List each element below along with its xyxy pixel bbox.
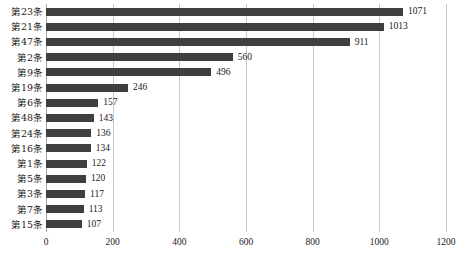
bar-row[interactable]: 246 <box>46 80 446 95</box>
bar[interactable] <box>46 144 91 152</box>
bar-value-label: 117 <box>90 187 104 202</box>
category-label: 第3条 <box>0 186 43 201</box>
bar[interactable] <box>46 114 94 122</box>
bar-value-label: 136 <box>96 126 110 141</box>
bar-value-label: 122 <box>92 156 106 171</box>
bar[interactable] <box>46 53 233 61</box>
bar[interactable] <box>46 99 98 107</box>
bar[interactable] <box>46 38 350 46</box>
bar-row[interactable]: 560 <box>46 50 446 65</box>
category-label: 第47条 <box>0 34 43 49</box>
bar-row[interactable]: 143 <box>46 110 446 125</box>
x-tick-label: 0 <box>44 236 49 248</box>
bar[interactable] <box>46 220 82 228</box>
category-label: 第24条 <box>0 126 43 141</box>
bar-row[interactable]: 120 <box>46 171 446 186</box>
bar-row[interactable]: 157 <box>46 95 446 110</box>
bar[interactable] <box>46 160 87 168</box>
category-label: 第48条 <box>0 110 43 125</box>
bar[interactable] <box>46 68 211 76</box>
category-label: 第21条 <box>0 19 43 34</box>
category-label: 第15条 <box>0 217 43 232</box>
x-tick-label: 200 <box>106 236 120 248</box>
bar-value-label: 911 <box>355 35 369 50</box>
bar-value-label: 134 <box>96 141 110 156</box>
category-label: 第16条 <box>0 141 43 156</box>
bar-row[interactable]: 134 <box>46 141 446 156</box>
x-tick-label: 400 <box>172 236 186 248</box>
bar-row[interactable]: 1013 <box>46 19 446 34</box>
category-label: 第23条 <box>0 4 43 19</box>
bar-value-label: 1013 <box>389 19 408 34</box>
bar-row[interactable]: 117 <box>46 186 446 201</box>
x-tick-label: 600 <box>239 236 253 248</box>
bar-row[interactable]: 136 <box>46 126 446 141</box>
bar-value-label: 1071 <box>408 4 427 19</box>
bar-value-label: 157 <box>103 95 117 110</box>
x-tick-label: 1200 <box>437 236 456 248</box>
bar-row[interactable]: 1071 <box>46 4 446 19</box>
bar[interactable] <box>46 190 85 198</box>
bar-value-label: 143 <box>99 111 113 126</box>
bar[interactable] <box>46 23 384 31</box>
bar-chart: 1071101391156049624615714313613412212011… <box>0 0 465 259</box>
bar-value-label: 560 <box>238 50 252 65</box>
category-label: 第5条 <box>0 171 43 186</box>
bar[interactable] <box>46 84 128 92</box>
bar-row[interactable]: 122 <box>46 156 446 171</box>
bar-row[interactable]: 496 <box>46 65 446 80</box>
bar-value-label: 496 <box>216 65 230 80</box>
bar-value-label: 246 <box>133 80 147 95</box>
bar[interactable] <box>46 129 91 137</box>
category-label: 第2条 <box>0 50 43 65</box>
bar-row[interactable]: 911 <box>46 34 446 49</box>
bar-row[interactable]: 113 <box>46 202 446 217</box>
bar-row[interactable]: 107 <box>46 217 446 232</box>
bar-value-label: 120 <box>91 171 105 186</box>
x-tick-label: 1000 <box>370 236 389 248</box>
category-label: 第6条 <box>0 95 43 110</box>
category-label: 第7条 <box>0 202 43 217</box>
bar[interactable] <box>46 8 403 16</box>
category-label: 第19条 <box>0 80 43 95</box>
bar-value-label: 113 <box>89 202 103 217</box>
gridline <box>446 4 447 232</box>
x-tick-label: 800 <box>306 236 320 248</box>
plot-area: 1071101391156049624615714313613412212011… <box>46 4 446 232</box>
bar[interactable] <box>46 175 86 183</box>
category-label: 第1条 <box>0 156 43 171</box>
bar[interactable] <box>46 205 84 213</box>
category-label: 第9条 <box>0 65 43 80</box>
bar-value-label: 107 <box>87 217 101 232</box>
